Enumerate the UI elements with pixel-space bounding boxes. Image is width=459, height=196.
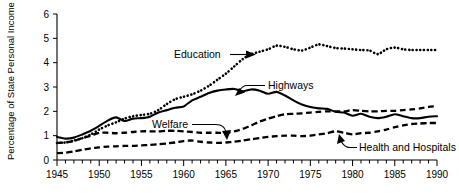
x-tick-label-1950: 1950 (88, 169, 111, 180)
x-tick-label-1990: 1990 (426, 169, 449, 180)
x-tick-label-1985: 1985 (384, 169, 407, 180)
y-tick-label-6: 6 (43, 9, 49, 20)
annotation-highways: Highways (235, 79, 314, 96)
x-tick-label-1955: 1955 (130, 169, 153, 180)
x-tick-label-1975: 1975 (299, 169, 322, 180)
annotation-leader-health (341, 141, 357, 148)
series-group (57, 44, 437, 153)
y-tick-label-2: 2 (43, 106, 49, 117)
axes (57, 14, 437, 160)
y-tick-label-5: 5 (43, 33, 49, 44)
annotation-label-education: Education (174, 48, 221, 60)
annotation-label-welfare: Welfare (152, 118, 188, 130)
x-tick-label-1970: 1970 (257, 169, 280, 180)
series-welfare (57, 106, 437, 143)
y-tick-label-1: 1 (43, 130, 49, 141)
annotation-health: Health and Hospitals (337, 134, 456, 153)
annotation-arrow-welfare (222, 130, 231, 140)
annotation-welfare: Welfare (152, 118, 231, 140)
state-spending-line-chart: Percentage of State Personal Income 0123… (0, 0, 459, 196)
y-axis-ticks: 0123456 (43, 9, 57, 166)
y-tick-label-3: 3 (43, 82, 49, 93)
chart-page: Percentage of State Personal Income 0123… (0, 0, 459, 196)
y-tick-label-0: 0 (43, 155, 49, 166)
annotation-label-health: Health and Hospitals (359, 141, 456, 153)
annotation-arrow-health (337, 134, 345, 144)
annotation-label-highways: Highways (268, 79, 314, 91)
x-axis-ticks: 1945195019551960196519701975198019851990 (46, 160, 449, 180)
x-tick-label-1980: 1980 (341, 169, 364, 180)
annotation-arrow-education (246, 51, 256, 59)
x-tick-label-1945: 1945 (46, 169, 69, 180)
y-tick-label-4: 4 (43, 57, 49, 68)
x-tick-label-1965: 1965 (215, 169, 238, 180)
annotation-leader-welfare (192, 125, 226, 133)
y-axis-title: Percentage of State Personal Income (5, 2, 16, 160)
x-tick-label-1960: 1960 (173, 169, 196, 180)
